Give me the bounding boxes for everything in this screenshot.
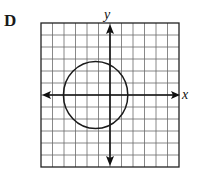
x-axis-label: x	[181, 87, 189, 102]
coordinate-plane: x y	[0, 0, 203, 182]
y-axis-label: y	[102, 7, 111, 22]
